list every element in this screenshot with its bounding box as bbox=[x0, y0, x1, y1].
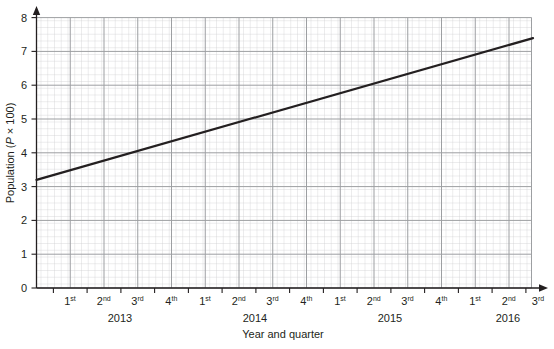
x-tick-label: 4th bbox=[165, 295, 177, 307]
x-tick-label: 2nd bbox=[97, 295, 111, 307]
x-tick-label: 4th bbox=[300, 295, 312, 307]
svg-text:Population (P × 100): Population (P × 100) bbox=[4, 103, 16, 204]
y-tick-label: 8 bbox=[21, 12, 27, 24]
up-arrow-icon bbox=[33, 6, 40, 15]
x-tick-label: 1st bbox=[469, 295, 481, 307]
x-year-label: 2015 bbox=[378, 312, 402, 324]
x-year-label: 2014 bbox=[243, 312, 267, 324]
x-year-label: 2016 bbox=[496, 312, 520, 324]
y-tick-label: 0 bbox=[21, 282, 27, 294]
right-arrow-icon bbox=[539, 284, 548, 291]
x-tick-label: 2nd bbox=[367, 295, 381, 307]
y-tick-labels: 0 1 2 3 4 5 6 7 8 bbox=[21, 12, 27, 294]
y-tick-label: 2 bbox=[21, 214, 27, 226]
x-tick-marks bbox=[53, 288, 526, 293]
x-tick-label: 1st bbox=[64, 295, 76, 307]
y-tick-label: 3 bbox=[21, 181, 27, 193]
x-tick-label: 1st bbox=[199, 295, 211, 307]
y-tick-label: 7 bbox=[21, 45, 27, 57]
x-axis-title: Year and quarter bbox=[242, 328, 324, 340]
x-tick-label: 1st bbox=[334, 295, 346, 307]
x-tick-label: 2nd bbox=[502, 295, 516, 307]
x-tick-labels: 1st 2nd 3rd 4th 1st 2nd 3rd 4th bbox=[64, 295, 544, 307]
x-year-label: 2013 bbox=[108, 312, 132, 324]
x-year-labels: 2013 2014 2015 2016 bbox=[108, 312, 520, 324]
x-tick-label: 3rd bbox=[532, 295, 544, 307]
x-tick-label: 4th bbox=[435, 295, 447, 307]
y-axis-title: Population (P × 100) bbox=[4, 103, 16, 204]
x-tick-label: 3rd bbox=[266, 295, 278, 307]
population-line-chart: 0 1 2 3 4 5 6 7 8 Population (P × 100) bbox=[0, 0, 554, 349]
y-axis-title-prefix: Population ( bbox=[4, 144, 16, 203]
y-tick-label: 6 bbox=[21, 79, 27, 91]
x-tick-label: 2nd bbox=[232, 295, 246, 307]
y-tick-label: 1 bbox=[21, 248, 27, 260]
x-tick-label: 3rd bbox=[401, 295, 413, 307]
chart-canvas: 0 1 2 3 4 5 6 7 8 Population (P × 100) bbox=[0, 0, 554, 349]
y-tick-label: 5 bbox=[21, 113, 27, 125]
x-tick-label: 3rd bbox=[131, 295, 143, 307]
y-tick-marks bbox=[32, 18, 37, 288]
y-tick-label: 4 bbox=[21, 147, 27, 159]
y-axis-title-suffix: × 100) bbox=[4, 103, 16, 138]
